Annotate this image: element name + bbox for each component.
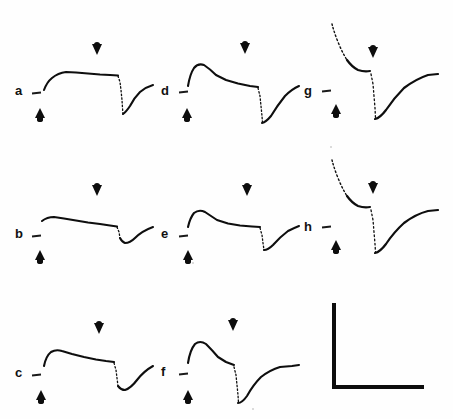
panel-a-trace bbox=[14, 38, 154, 138]
panel-d-trace bbox=[160, 38, 300, 138]
panel-f-trace bbox=[160, 315, 300, 413]
panel-b-trace bbox=[14, 180, 154, 275]
panel-d: d bbox=[160, 38, 300, 138]
panel-b: b bbox=[14, 180, 154, 275]
panel-h-trace bbox=[300, 158, 445, 278]
panel-f: f bbox=[160, 315, 300, 413]
scale-bar-horizontal bbox=[332, 385, 424, 389]
scale-bar-vertical bbox=[332, 303, 336, 386]
scan-speck bbox=[252, 408, 254, 410]
panel-g: g bbox=[300, 22, 445, 142]
panel-h: h bbox=[300, 158, 445, 278]
panel-c: c bbox=[14, 318, 154, 413]
panel-e-trace bbox=[160, 180, 300, 275]
panel-e: e bbox=[160, 180, 300, 275]
panel-c-trace bbox=[14, 318, 154, 413]
panel-a: a bbox=[14, 38, 154, 138]
scan-speck bbox=[330, 146, 332, 148]
figure-canvas: a b c d bbox=[0, 0, 453, 419]
panel-g-trace bbox=[300, 22, 445, 142]
scan-speck bbox=[192, 262, 194, 264]
